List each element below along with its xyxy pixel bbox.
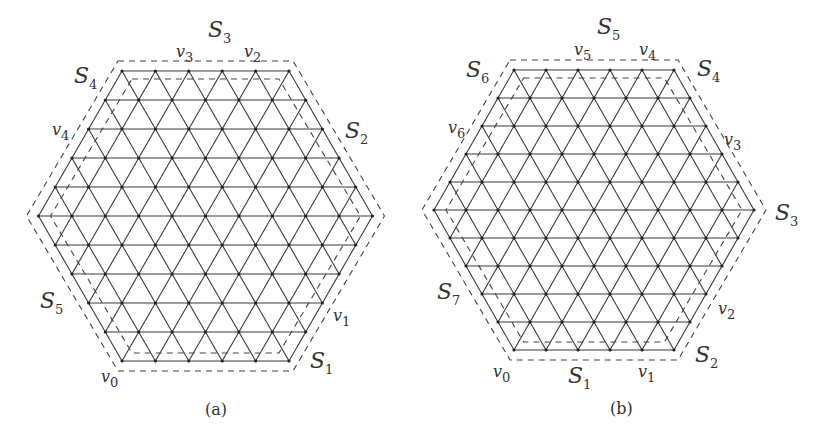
vertex-label-v0: v0 [101,367,118,390]
vertex-label-v2: v2 [718,299,735,322]
side-label-S1: S1 [310,348,333,377]
side-label-S5: S5 [40,288,63,317]
panel-b-labels: S1S2S3S4S5S6S7v0v1v2v3v4v5v6 [437,14,798,392]
side-label-S3: S3 [775,200,798,229]
panel-b-triangular-lattice [432,68,755,351]
hexagonal-lattice-figure: S1S2S3S4S5v0v1v2v3v4 (a) S1S2S3S4S5S6S7v… [0,0,821,442]
vertex-label-v1: v1 [333,306,350,329]
side-label-S5: S5 [597,14,620,43]
panel-a-caption: (a) [205,400,227,419]
side-label-S4: S4 [697,56,720,85]
vertex-label-v4: v4 [52,120,69,143]
side-label-S2: S2 [345,118,368,147]
panel-b-hexagon-6-sides: S1S2S3S4S5S6S7v0v1v2v3v4v5v6 (b) [422,14,798,418]
vertex-label-v3: v3 [724,130,741,153]
side-label-S2: S2 [695,342,718,371]
side-label-S3: S3 [208,17,231,46]
side-label-S6: S6 [466,57,489,86]
vertex-label-v2: v2 [244,42,261,65]
side-label-S4: S4 [74,63,97,92]
vertex-label-v4: v4 [639,40,656,63]
panel-b-caption: (b) [610,399,633,418]
vertex-label-v0: v0 [493,362,510,385]
vertex-label-v1: v1 [638,362,655,385]
side-label-S1: S1 [568,363,591,392]
panel-a-hexagon-6-sides: S1S2S3S4S5v0v1v2v3v4 (a) [27,17,385,419]
vertex-label-v6: v6 [448,118,465,141]
side-label-S7: S7 [437,279,460,308]
